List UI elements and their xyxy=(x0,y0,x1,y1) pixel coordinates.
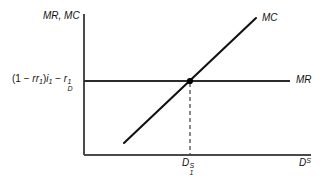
x-axis-tick-label: DS1 xyxy=(182,158,195,168)
mr-curve-label: MR xyxy=(296,75,312,85)
y-tick-open-paren: (1 − xyxy=(12,73,32,84)
equilibrium-point-marker xyxy=(187,78,193,84)
mc-curve-label: MC xyxy=(262,13,278,23)
x-axis-title-superscript: S xyxy=(306,157,311,164)
y-axis-tick-label: (1 − rr1)i1 − r1D xyxy=(12,74,73,84)
y-tick-rr: rr xyxy=(32,73,39,84)
y-tick-minus: − xyxy=(52,73,63,84)
x-tick-base: D xyxy=(182,157,189,168)
chart-canvas xyxy=(0,0,332,184)
y-axis-title: MR, MC xyxy=(43,11,80,21)
x-tick-subscript: 1 xyxy=(190,169,194,176)
x-axis-title: DS xyxy=(299,158,311,168)
economics-chart-figure: MR, MC MC MR (1 − rr1)i1 − r1D DS1 DS xyxy=(0,0,332,184)
y-tick-r-subscript: D xyxy=(67,85,72,92)
